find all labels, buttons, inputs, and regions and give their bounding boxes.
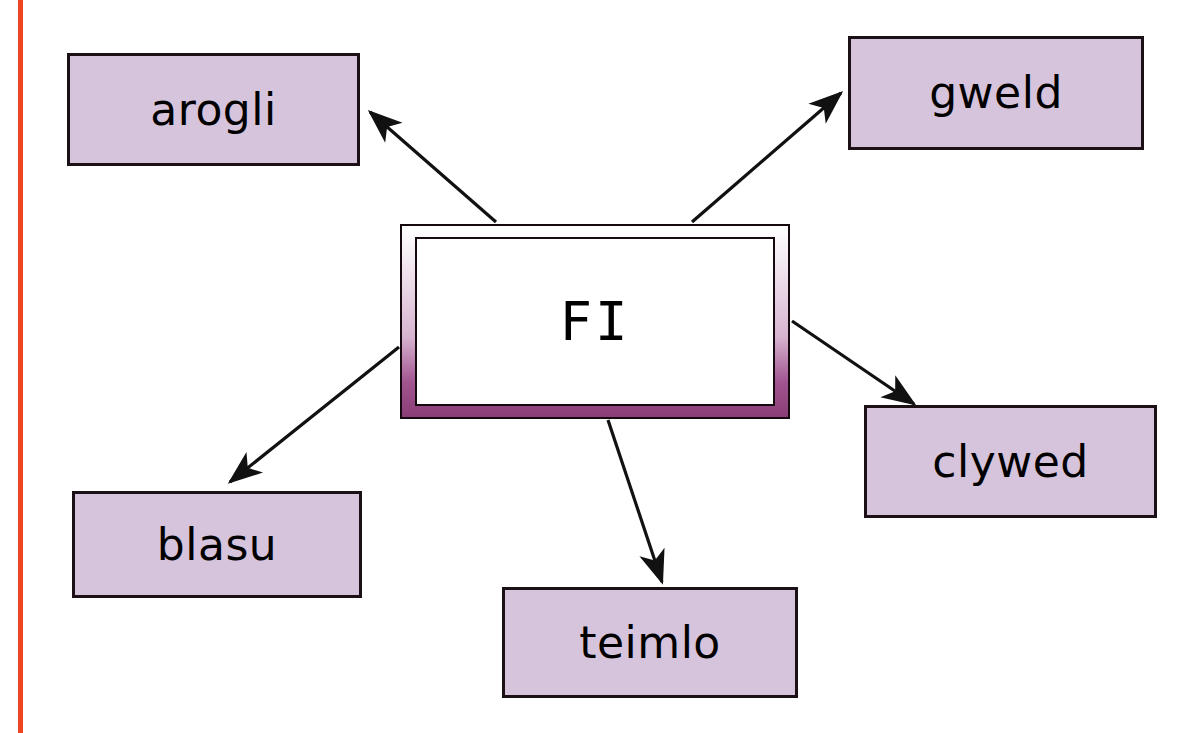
- node-teimlo-label: teimlo: [579, 621, 721, 665]
- node-blasu-label: blasu: [157, 523, 277, 567]
- node-clywed-label: clywed: [932, 440, 1088, 484]
- node-blasu[interactable]: blasu: [72, 491, 362, 598]
- edge-center-to-teimlo: [608, 420, 662, 582]
- edge-center-to-gweld: [692, 93, 841, 222]
- edge-center-to-arogli: [370, 112, 496, 222]
- node-arogli[interactable]: arogli: [67, 53, 360, 166]
- node-center-label: FI: [559, 295, 630, 349]
- edge-center-to-blasu: [230, 347, 399, 482]
- node-clywed[interactable]: clywed: [864, 405, 1157, 518]
- node-teimlo[interactable]: teimlo: [502, 587, 798, 698]
- node-arogli-label: arogli: [150, 88, 276, 132]
- node-gweld[interactable]: gweld: [848, 36, 1144, 150]
- node-center[interactable]: FI: [400, 224, 790, 419]
- node-center-inner: FI: [415, 237, 775, 406]
- diagram-canvas: arogli gweld clywed blasu teimlo FI: [0, 0, 1193, 733]
- edge-center-to-clywed: [792, 321, 914, 404]
- node-gweld-label: gweld: [929, 71, 1063, 115]
- margin-rule: [18, 0, 23, 733]
